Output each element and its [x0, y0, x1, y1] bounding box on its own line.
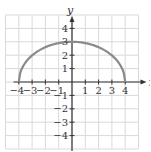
svg-text:3: 3 — [62, 36, 68, 47]
svg-text:2: 2 — [62, 50, 68, 61]
svg-text:1: 1 — [82, 85, 88, 96]
svg-text:−2: −2 — [53, 103, 68, 114]
x-axis-label: x — [149, 76, 151, 89]
svg-text:4: 4 — [122, 85, 128, 96]
svg-text:−4: −4 — [53, 130, 68, 141]
axes — [14, 16, 147, 151]
svg-text:1: 1 — [62, 63, 68, 74]
svg-text:−1: −1 — [53, 90, 68, 101]
svg-text:−3: −3 — [53, 117, 68, 128]
svg-text:3: 3 — [109, 85, 115, 96]
graph: −4−3−2−11234−4−3−2−11234 x y — [0, 0, 150, 152]
y-axis-label: y — [66, 4, 74, 17]
svg-text:4: 4 — [62, 23, 68, 34]
svg-text:2: 2 — [95, 85, 101, 96]
